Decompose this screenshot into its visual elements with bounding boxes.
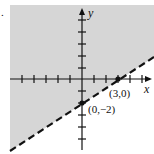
y-axis-label: y (87, 6, 94, 20)
point-label-y-intercept: (0,−2) (88, 103, 116, 116)
figure-marker: . (1, 6, 4, 18)
x-axis-label: x (143, 82, 150, 96)
point-label-x-intercept: (3,0) (109, 87, 130, 100)
point-x-intercept (115, 76, 120, 81)
point-y-intercept (79, 100, 84, 105)
inequality-graph: y x (3,0) (0,−2) . (0, 0, 154, 154)
